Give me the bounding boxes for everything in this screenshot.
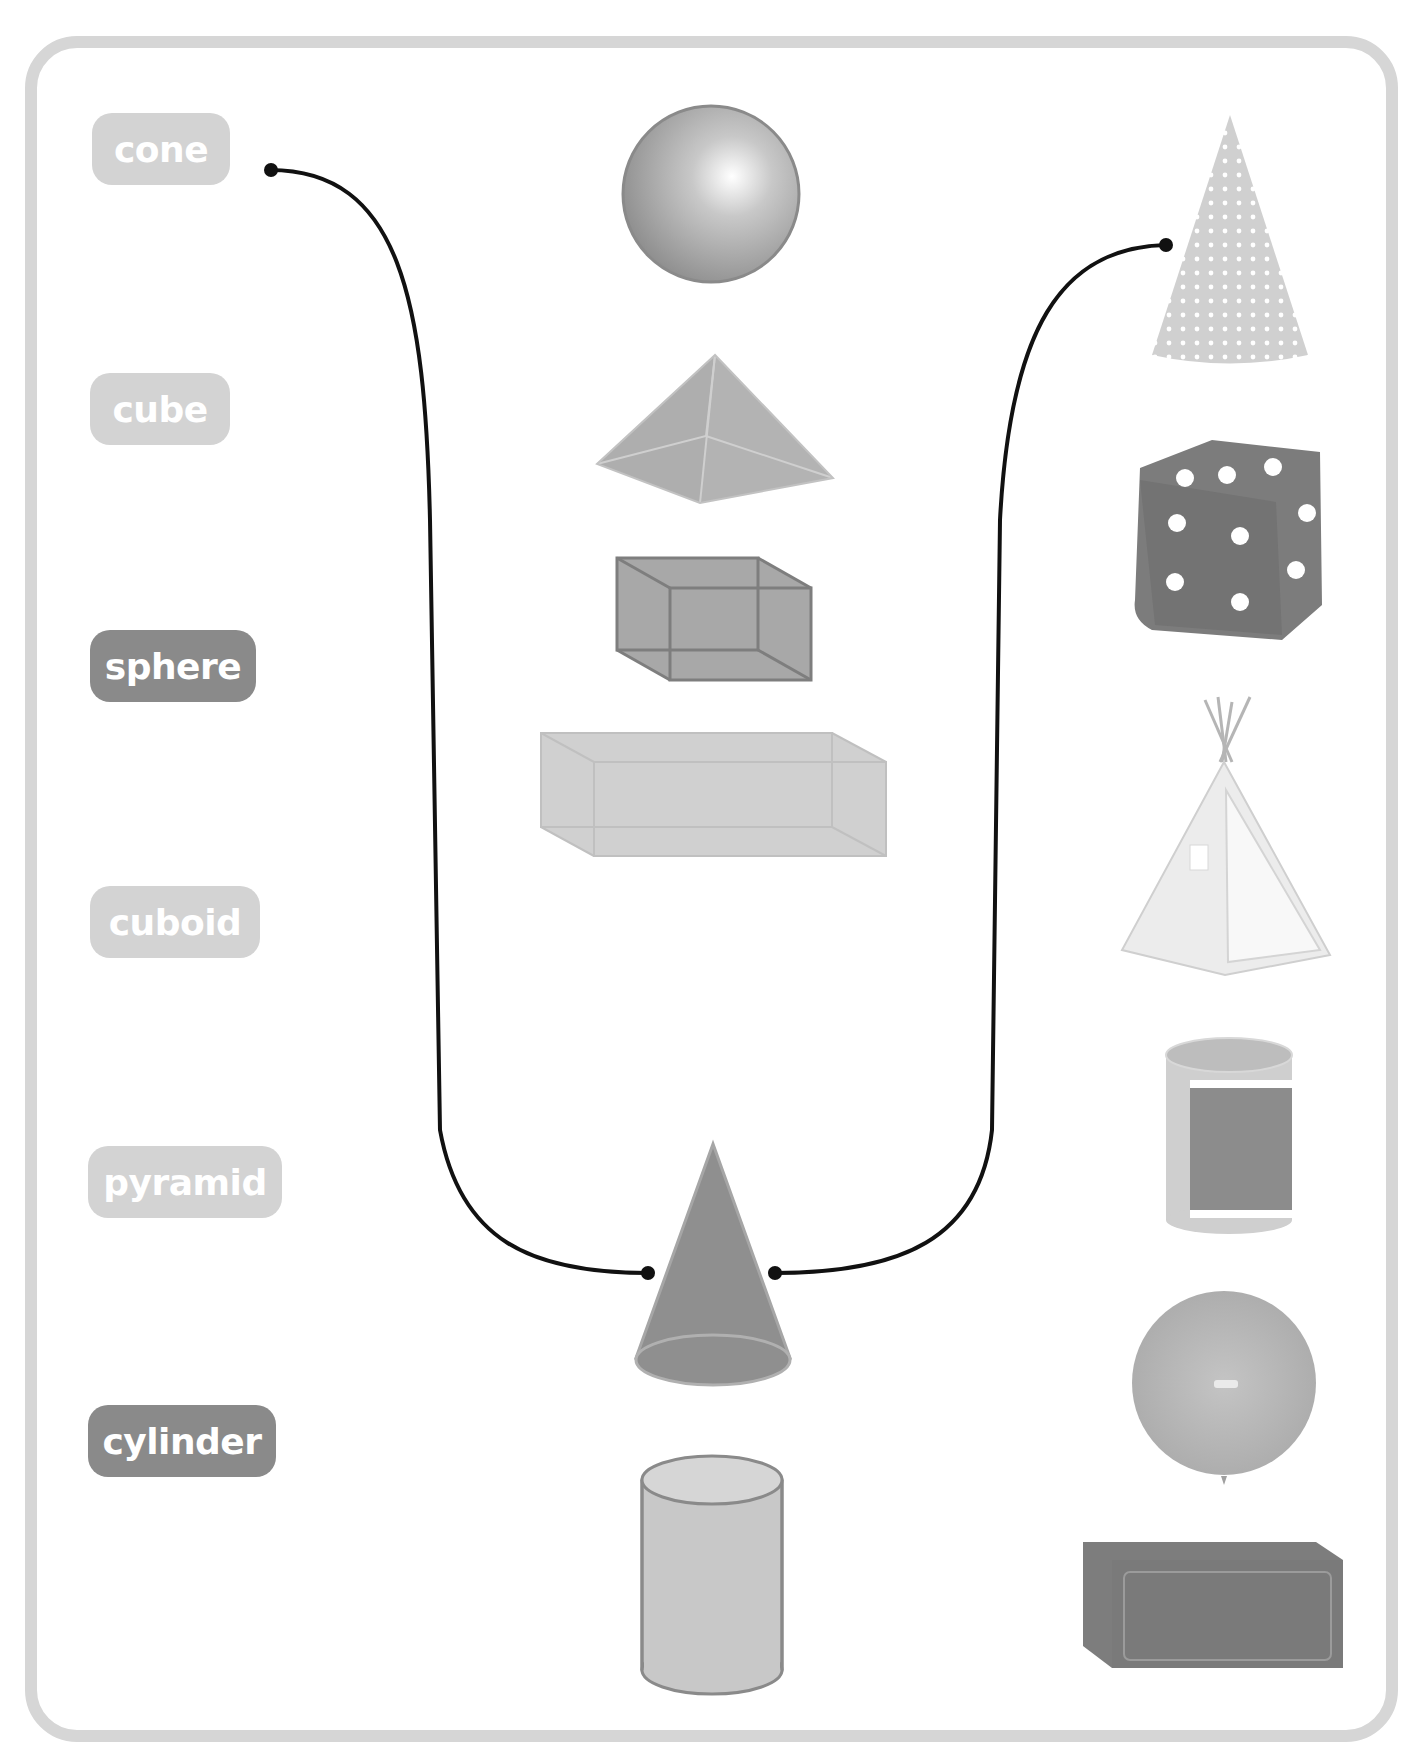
- center-cylinder[interactable]: [642, 1456, 782, 1694]
- shapes-canvas: [0, 0, 1420, 1753]
- connector-end-dot-icon: [768, 1266, 782, 1280]
- object-dice[interactable]: [1135, 440, 1322, 640]
- object-paper-roll[interactable]: [1166, 1038, 1292, 1234]
- center-pyramid[interactable]: [597, 355, 833, 503]
- connector-end-dot-icon: [641, 1266, 655, 1280]
- connector-cone-label: [264, 163, 655, 1280]
- object-brick[interactable]: [1083, 1542, 1343, 1668]
- object-balloon[interactable]: [1132, 1291, 1316, 1485]
- object-party-hat[interactable]: [1152, 115, 1308, 364]
- connector-start-dot-icon: [1159, 238, 1173, 252]
- center-cone[interactable]: [636, 1144, 790, 1385]
- center-sphere[interactable]: [623, 106, 799, 282]
- object-teepee-tent[interactable]: [1122, 697, 1330, 975]
- center-cuboid[interactable]: [541, 733, 886, 856]
- connector-start-dot-icon: [264, 163, 278, 177]
- center-cube[interactable]: [617, 558, 811, 680]
